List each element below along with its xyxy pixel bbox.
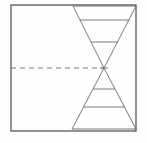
diagram-canvas: [0, 0, 147, 143]
hourglass-diagram: [0, 0, 147, 143]
upper-triangle-shape: [73, 6, 136, 68]
lower-triangle-shape: [72, 68, 136, 129]
